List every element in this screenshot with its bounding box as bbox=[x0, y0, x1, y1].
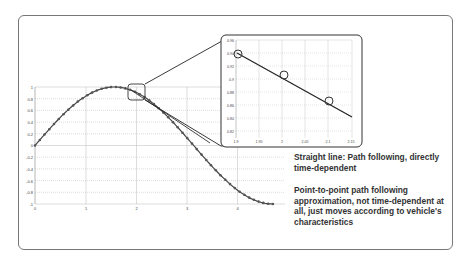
curve-marker bbox=[119, 86, 122, 89]
curve-marker bbox=[234, 187, 237, 190]
svg-text:2: 2 bbox=[135, 206, 138, 211]
curve-marker bbox=[262, 202, 265, 205]
curve-marker bbox=[224, 179, 227, 182]
curve-marker bbox=[91, 91, 94, 94]
svg-text:2.1: 2.1 bbox=[326, 140, 331, 144]
curve-marker bbox=[238, 190, 241, 193]
curve-marker bbox=[200, 153, 203, 156]
curve-marker bbox=[43, 133, 46, 136]
curve-marker bbox=[81, 97, 84, 100]
svg-text:2.05: 2.05 bbox=[302, 140, 309, 144]
curve-marker bbox=[105, 86, 108, 89]
curve-marker bbox=[100, 88, 103, 91]
curve-marker bbox=[58, 118, 61, 121]
svg-text:1.9: 1.9 bbox=[234, 140, 239, 144]
curve-marker bbox=[186, 137, 189, 140]
curve-marker bbox=[243, 194, 246, 197]
curve-marker bbox=[172, 121, 175, 124]
svg-text:0.6: 0.6 bbox=[27, 108, 33, 113]
svg-text:0.84: 0.84 bbox=[227, 117, 234, 121]
curve-marker bbox=[53, 123, 56, 126]
curve-marker bbox=[67, 108, 70, 111]
main-y-tick-labels: 10.80.6 0.40.20 -0.2-0.4-0.6 -0.8-1 bbox=[26, 85, 34, 207]
curve-marker bbox=[253, 199, 256, 202]
curve-marker bbox=[195, 148, 198, 151]
svg-text:0.94: 0.94 bbox=[227, 52, 234, 56]
svg-text:-0.6: -0.6 bbox=[26, 179, 34, 184]
connector-top bbox=[145, 41, 222, 84]
svg-text:0.9: 0.9 bbox=[229, 78, 234, 82]
curve-marker bbox=[39, 139, 42, 142]
caption-point-to-point: Point-to-point path following approximat… bbox=[294, 185, 446, 227]
curve-marker bbox=[229, 183, 232, 186]
curve-marker bbox=[191, 142, 194, 145]
curve-marker bbox=[219, 174, 222, 177]
curve-marker bbox=[267, 202, 270, 205]
svg-text:1: 1 bbox=[85, 206, 88, 211]
svg-text:-0.4: -0.4 bbox=[26, 167, 34, 172]
curve-marker bbox=[115, 86, 118, 89]
curve-marker bbox=[167, 116, 170, 119]
curve-marker bbox=[215, 169, 218, 172]
curve-marker bbox=[129, 89, 132, 92]
svg-text:-0.2: -0.2 bbox=[26, 155, 34, 160]
curve-marker bbox=[34, 144, 37, 147]
curve-marker bbox=[124, 87, 127, 90]
curve-marker bbox=[248, 196, 251, 199]
svg-text:0.2: 0.2 bbox=[27, 132, 33, 137]
curve-marker bbox=[48, 128, 51, 131]
svg-text:0: 0 bbox=[31, 143, 34, 148]
svg-text:0.88: 0.88 bbox=[227, 91, 234, 95]
svg-text:0.92: 0.92 bbox=[227, 65, 234, 69]
svg-text:3: 3 bbox=[186, 206, 189, 211]
svg-text:0: 0 bbox=[34, 206, 37, 211]
main-x-tick-labels: 012 34 bbox=[34, 206, 240, 211]
curve-marker bbox=[176, 126, 179, 129]
svg-text:4: 4 bbox=[236, 206, 239, 211]
curve-marker bbox=[210, 164, 213, 167]
curve-marker bbox=[86, 94, 89, 97]
svg-text:0.96: 0.96 bbox=[227, 39, 234, 43]
svg-text:1.95: 1.95 bbox=[256, 140, 263, 144]
curve-marker bbox=[181, 131, 184, 134]
svg-text:0.86: 0.86 bbox=[227, 104, 234, 108]
svg-text:0.8: 0.8 bbox=[27, 97, 33, 102]
caption-straight-line: Straight line: Path following, directly … bbox=[294, 152, 446, 173]
curve-marker bbox=[272, 203, 275, 206]
svg-text:-0.8: -0.8 bbox=[26, 190, 34, 195]
straight-path-line bbox=[131, 90, 210, 143]
curve-marker bbox=[257, 200, 260, 203]
svg-text:2: 2 bbox=[281, 140, 283, 144]
curve-marker bbox=[96, 89, 99, 92]
curve-marker bbox=[62, 113, 65, 116]
curve-marker bbox=[110, 86, 113, 89]
curve-marker bbox=[72, 104, 75, 107]
svg-text:0.82: 0.82 bbox=[227, 130, 234, 134]
svg-text:0.4: 0.4 bbox=[27, 120, 33, 125]
svg-text:1: 1 bbox=[31, 85, 34, 90]
curve-marker bbox=[77, 100, 80, 103]
zoom-inset-frame bbox=[221, 35, 362, 147]
curve-marker bbox=[205, 159, 208, 162]
svg-text:2.15: 2.15 bbox=[348, 140, 355, 144]
